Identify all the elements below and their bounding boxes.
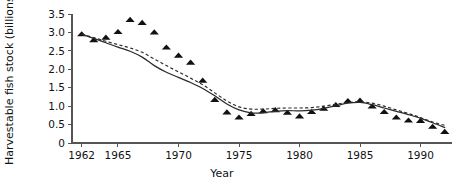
data-point-marker [234,114,243,119]
x-axis-tick-label: 1975 [226,149,253,161]
y-axis-tick-label: 1.0 [48,100,65,112]
data-point-marker [162,44,171,49]
data-point-marker [101,34,110,39]
data-point-marker [125,17,134,22]
y-axis-tick-label: 0 [58,137,65,149]
data-point-marker [404,117,413,122]
x-axis-tick-label: 1970 [165,149,192,161]
x-axis-tick-label: 1985 [347,149,374,161]
y-axis-tick-label: 1.5 [48,81,65,93]
data-point-marker [138,20,147,25]
model-fit-solid [82,34,445,127]
axes-group: 00.51.01.52.02.53.03.5196219651970197519… [3,0,452,180]
harvestable-fish-stock-chart: 00.51.01.52.02.53.03.5196219651970197519… [0,0,456,185]
data-point-marker [150,29,159,34]
series-group [77,17,449,134]
x-axis-tick-label: 1980 [286,149,313,161]
x-axis-tick-label: 1965 [105,149,132,161]
data-point-marker [186,60,195,65]
data-point-marker [198,78,207,83]
x-axis-tick-label: 1962 [68,149,95,161]
y-axis-tick-label: 3.0 [48,26,65,38]
data-point-marker [174,53,183,58]
y-axis-tick-label: 3.5 [48,8,65,20]
chart-canvas: 00.51.01.52.02.53.03.5196219651970197519… [0,0,456,185]
y-axis-tick-label: 2.5 [48,45,65,57]
y-axis-tick-label: 2.0 [48,63,65,75]
data-point-marker [222,109,231,114]
data-point-marker [392,114,401,119]
data-point-marker [113,29,122,34]
data-point-marker [295,113,304,118]
data-point-marker [440,129,449,134]
x-axis-title: Year [209,167,234,180]
data-markers-group [77,17,449,134]
x-axis-tick-label: 1990 [407,149,434,161]
y-axis-title: Harvestable fish stock (billions) [3,0,16,165]
data-point-marker [380,109,389,114]
y-axis-tick-label: 0.5 [48,118,65,130]
